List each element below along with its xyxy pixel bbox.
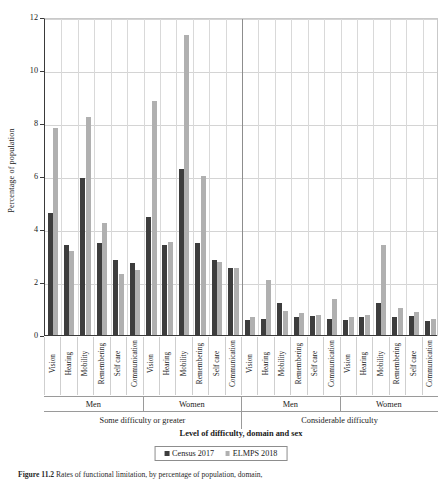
x-domain-label: Self care (308, 337, 321, 395)
x-axis-difficulty-groups: Some difficulty or greaterConsiderable d… (44, 411, 438, 429)
legend-item-census: Census 2017 (165, 449, 215, 458)
bar-elmps (201, 176, 206, 336)
sex-group-label: Women (143, 397, 242, 412)
bar-census (425, 321, 430, 336)
caption-figure-number: Figure 11.2 (18, 470, 54, 479)
bar-group (423, 19, 439, 336)
y-tick-label: 6 (4, 172, 38, 181)
bar-elmps (119, 274, 124, 336)
figure-caption: Figure 11.2 Rates of functional limitati… (18, 470, 430, 480)
bar-elmps (86, 117, 91, 336)
bar-group (308, 19, 324, 336)
sex-group-label: Women (340, 397, 439, 412)
bar-census (245, 320, 250, 336)
x-domain-label: Hearing (62, 337, 75, 395)
bar-group (390, 19, 406, 336)
x-domain-label: Communication (325, 337, 338, 395)
x-domain-label: Self care (407, 337, 420, 395)
x-domain-label: Mobility (276, 337, 289, 395)
bar-group (291, 19, 307, 336)
x-domain-label: Remembering (390, 337, 403, 395)
bar-elmps (349, 317, 354, 336)
y-axis-title: Percentage of population (0, 0, 22, 340)
x-domain-label: Vision (144, 337, 157, 395)
sex-group-label: Men (241, 397, 340, 412)
bar-census (310, 316, 315, 336)
bar-group (242, 19, 258, 336)
bar-census (327, 319, 332, 336)
bar-elmps (381, 245, 386, 336)
x-domain-label: Remembering (95, 337, 108, 395)
group-separator (340, 397, 341, 412)
bar-census (261, 319, 266, 336)
bar-census (212, 260, 217, 336)
x-domain-label: Vision (341, 337, 354, 395)
bar-elmps (217, 262, 222, 336)
bar-census (113, 260, 118, 336)
group-separator (241, 397, 242, 412)
y-tick-label: 0 (4, 331, 38, 340)
bar-group (324, 19, 340, 336)
bar-elmps (414, 312, 419, 336)
bar-elmps (332, 299, 337, 336)
bar-group (94, 19, 110, 336)
bar-group (275, 19, 291, 336)
y-tick-label: 4 (4, 225, 38, 234)
bar-elmps (250, 317, 255, 336)
bar-elmps (152, 101, 157, 336)
bar-group (193, 19, 209, 336)
bar-census (228, 268, 233, 336)
bar-elmps (102, 223, 107, 336)
x-domain-label: Remembering (292, 337, 305, 395)
caption-text: Rates of functional limitation, by perce… (56, 470, 262, 479)
legend-swatch-elmps-icon (225, 451, 230, 456)
bar-group (176, 19, 192, 336)
y-tick-label: 2 (4, 278, 38, 287)
bar-census (343, 320, 348, 336)
x-domain-label: Mobility (79, 337, 92, 395)
bar-elmps (365, 315, 370, 336)
bar-group (341, 19, 357, 336)
bar-elmps (168, 242, 173, 336)
x-domain-label: Vision (243, 337, 256, 395)
legend-item-elmps: ELMPS 2018 (225, 449, 277, 458)
bar-census (359, 317, 364, 336)
bar-census (162, 245, 167, 336)
bar-elmps (398, 308, 403, 336)
bar-elmps (234, 268, 239, 336)
x-axis-sex-groups: MenWomenMenWomen (44, 396, 438, 412)
x-domain-label: Self care (210, 337, 223, 395)
bar-elmps (283, 311, 288, 336)
plot-area (44, 18, 438, 336)
axis-baseline (45, 335, 437, 336)
bar-elmps (316, 315, 321, 336)
bar-census (48, 213, 53, 336)
bar-census (130, 263, 135, 336)
bar-census (409, 316, 414, 336)
legend-swatch-census-icon (165, 451, 170, 456)
bar-census (146, 217, 151, 336)
y-tick-label: 10 (4, 66, 38, 75)
bar-census (195, 243, 200, 336)
difficulty-group-label: Some difficulty or greater (44, 412, 241, 429)
bar-elmps (135, 270, 140, 336)
bar-group (45, 19, 61, 336)
legend-label-elmps: ELMPS 2018 (233, 449, 278, 458)
bar-group (357, 19, 373, 336)
bar-group (226, 19, 242, 336)
x-domain-label: Hearing (358, 337, 371, 395)
x-domain-label: Hearing (259, 337, 272, 395)
y-tick-label: 8 (4, 119, 38, 128)
bar-census (376, 303, 381, 336)
x-domain-label: Communication (423, 337, 436, 395)
bar-group (258, 19, 274, 336)
bar-group (78, 19, 94, 336)
bar-census (97, 243, 102, 336)
bar-census (392, 317, 397, 336)
bar-census (277, 303, 282, 336)
group-separator (143, 397, 144, 412)
x-domain-label: Remembering (193, 337, 206, 395)
bar-group (111, 19, 127, 336)
bar-group (127, 19, 143, 336)
bar-elmps (53, 128, 58, 336)
